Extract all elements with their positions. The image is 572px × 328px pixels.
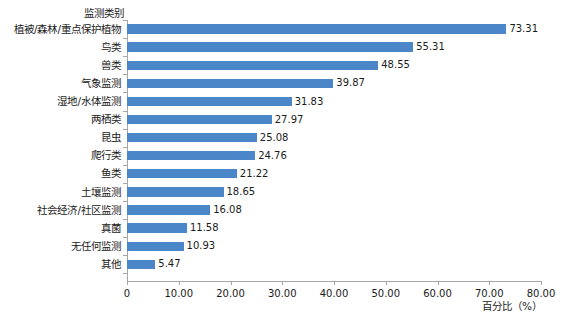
category-label: 湿地/水体监测	[57, 95, 121, 108]
bar	[127, 61, 378, 70]
bar-row: 10.93	[127, 237, 541, 255]
value-tick	[282, 281, 283, 285]
category-label: 土壤监测	[81, 186, 121, 199]
bar-row: 39.87	[127, 74, 541, 92]
value-tick-label: 70.00	[475, 287, 504, 300]
category-label: 其他	[101, 258, 121, 271]
bar-value-label: 48.55	[381, 58, 410, 71]
bar-row: 31.83	[127, 92, 541, 110]
bar-row: 27.97	[127, 111, 541, 129]
bar	[127, 205, 210, 214]
bar-row: 48.55	[127, 56, 541, 74]
value-tick	[438, 281, 439, 285]
bar-row: 11.58	[127, 219, 541, 237]
plot-area: 73.3155.3148.5539.8731.8327.9725.0824.76…	[127, 20, 541, 281]
bar-value-label: 27.97	[275, 113, 304, 126]
category-axis-title: 监测类别	[84, 7, 124, 20]
bar-value-label: 11.58	[190, 221, 219, 234]
category-label: 兽类	[101, 59, 121, 72]
bar-chart-figure: 监测类别 植被/森林/重点保护植物鸟类兽类气象监测湿地/水体监测两栖类昆虫爬行类…	[0, 0, 572, 328]
value-tick	[489, 281, 490, 285]
bar	[127, 24, 506, 33]
value-tick	[231, 281, 232, 285]
category-label: 社会经济/社区监测	[37, 204, 121, 217]
bar	[127, 151, 255, 160]
bar-value-label: 31.83	[295, 95, 324, 108]
bar	[127, 42, 413, 51]
category-label: 爬行类	[91, 149, 121, 162]
bar-row: 21.22	[127, 165, 541, 183]
bar	[127, 133, 257, 142]
bar-row: 5.47	[127, 255, 541, 273]
bar	[127, 115, 272, 124]
bar-value-label: 39.87	[336, 76, 365, 89]
category-label: 两栖类	[91, 113, 121, 126]
category-label: 气象监测	[81, 77, 121, 90]
category-label: 鸟类	[101, 41, 121, 54]
bar-row: 18.65	[127, 183, 541, 201]
bar-value-label: 21.22	[240, 167, 269, 180]
value-tick-label: 20.00	[216, 287, 245, 300]
value-tick-label: 10.00	[164, 287, 193, 300]
bar-value-label: 16.08	[213, 203, 242, 216]
category-label: 真菌	[101, 222, 121, 235]
value-tick-label: 60.00	[423, 287, 452, 300]
value-tick-label: 50.00	[371, 287, 400, 300]
bar	[127, 223, 187, 232]
category-label: 植被/森林/重点保护植物	[14, 23, 121, 36]
value-tick	[127, 281, 128, 285]
value-axis-title: 百分比（%）	[482, 300, 542, 313]
category-label: 无任何监测	[71, 240, 121, 253]
bar	[127, 79, 333, 88]
category-label: 昆虫	[101, 131, 121, 144]
bar-value-label: 73.31	[509, 22, 538, 35]
value-tick	[541, 281, 542, 285]
bar-row: 16.08	[127, 201, 541, 219]
value-tick	[334, 281, 335, 285]
value-tick-label: 40.00	[320, 287, 349, 300]
bar	[127, 187, 224, 196]
bar-value-label: 24.76	[258, 149, 287, 162]
bar-row: 24.76	[127, 147, 541, 165]
value-tick-label: 0	[124, 287, 130, 300]
bar	[127, 169, 237, 178]
bar	[127, 97, 292, 106]
bar	[127, 260, 155, 269]
bar-row: 55.31	[127, 38, 541, 56]
value-tick-label: 80.00	[527, 287, 556, 300]
value-tick	[179, 281, 180, 285]
bar-row: 73.31	[127, 20, 541, 38]
value-tick	[386, 281, 387, 285]
bar-value-label: 25.08	[260, 131, 289, 144]
bar-value-label: 18.65	[227, 185, 256, 198]
bar-value-label: 5.47	[158, 257, 180, 270]
bar	[127, 242, 184, 251]
value-tick-label: 30.00	[268, 287, 297, 300]
category-label: 鱼类	[101, 167, 121, 180]
bar-value-label: 55.31	[416, 40, 445, 53]
bar-row: 25.08	[127, 129, 541, 147]
bar-value-label: 10.93	[187, 239, 216, 252]
